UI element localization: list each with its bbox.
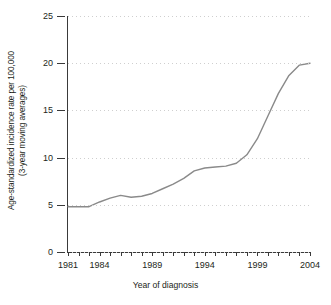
y-tick-label-20: 20 [31, 59, 53, 68]
x-tick-label-1984: 1984 [90, 260, 110, 270]
x-tick-mark-1987 [131, 252, 132, 256]
x-tick-mark-1993 [194, 252, 195, 256]
x-tick-mark-2003 [299, 252, 300, 256]
y-tick-label-10: 10 [31, 153, 53, 162]
incidence-rate-line-chart: Age-standardized incidence rate per 100,… [0, 0, 331, 305]
x-tick-label-1981: 1981 [58, 260, 78, 270]
y-tick-label-5: 5 [31, 200, 53, 209]
x-tick-mark-1994 [205, 252, 206, 256]
x-tick-mark-1982 [79, 252, 80, 256]
x-tick-mark-1989 [152, 252, 153, 256]
x-tick-mark-1998 [247, 252, 248, 256]
gridline-10 [68, 158, 310, 159]
x-tick-label-1989: 1989 [142, 260, 162, 270]
data-series-line [68, 16, 310, 252]
gridline-20 [68, 63, 310, 64]
y-tick-label-25: 25 [31, 12, 53, 21]
x-tick-mark-1983 [89, 252, 90, 256]
gridline-5 [68, 205, 310, 206]
x-tick-mark-2004 [310, 252, 311, 256]
x-tick-mark-1992 [184, 252, 185, 256]
plot-area [68, 16, 310, 252]
x-tick-mark-1996 [226, 252, 227, 256]
y-tick-mark-5 [57, 205, 65, 206]
y-tick-mark-10 [57, 158, 65, 159]
x-tick-mark-1997 [236, 252, 237, 256]
y-tick-label-15: 15 [31, 106, 53, 115]
x-tick-mark-1995 [215, 252, 216, 256]
y-axis-ticks: 0510152025 [0, 0, 67, 305]
gridline-0 [68, 252, 310, 253]
x-tick-label-1994: 1994 [195, 260, 215, 270]
y-tick-mark-0 [57, 252, 65, 253]
x-tick-mark-1986 [121, 252, 122, 256]
y-tick-mark-25 [57, 16, 65, 17]
x-tick-label-2004: 2004 [300, 260, 320, 270]
x-tick-mark-1988 [142, 252, 143, 256]
gridline-15 [68, 110, 310, 111]
x-tick-mark-2002 [289, 252, 290, 256]
x-tick-label-1999: 1999 [247, 260, 267, 270]
x-tick-mark-1991 [173, 252, 174, 256]
x-tick-mark-1984 [100, 252, 101, 256]
series-path-Age-standardized incidence rate [68, 63, 310, 206]
y-tick-mark-20 [57, 63, 65, 64]
y-tick-mark-15 [57, 110, 65, 111]
x-axis-label: Year of diagnosis [0, 280, 331, 290]
y-tick-label-0: 0 [31, 248, 53, 257]
x-tick-mark-1999 [257, 252, 258, 256]
x-tick-mark-2001 [278, 252, 279, 256]
x-tick-mark-1985 [110, 252, 111, 256]
x-tick-mark-2000 [268, 252, 269, 256]
gridline-25 [68, 16, 310, 17]
x-tick-mark-1990 [163, 252, 164, 256]
x-tick-mark-1981 [68, 252, 69, 256]
